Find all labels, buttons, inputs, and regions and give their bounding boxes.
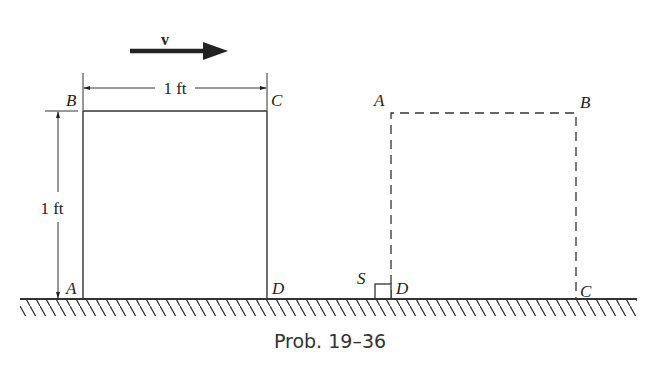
height-dimension-label: 1 ft (40, 199, 63, 218)
corner-label-initial-top-left: B (66, 91, 77, 110)
problem-figure: v 1 ft 1 ft B C A D A B D C S (0, 0, 658, 370)
ground (20, 299, 637, 316)
velocity-label: v (161, 31, 169, 48)
corner-label-final-bottom-left: D (395, 279, 409, 298)
corner-label-initial-bottom-right: D (271, 279, 285, 298)
corner-label-final-top-left: A (373, 91, 385, 110)
stop-label: S (357, 269, 366, 288)
height-dimension: 1 ft (40, 111, 78, 298)
corner-label-initial-top-right: C (271, 91, 283, 110)
velocity-arrow: v (130, 31, 228, 60)
corner-label-final-top-right: B (580, 93, 591, 112)
width-dimension-label: 1 ft (163, 79, 186, 98)
final-square: A B D C (373, 91, 592, 301)
initial-square: B C A D (65, 91, 285, 299)
width-dimension: 1 ft (83, 73, 267, 110)
stop-block: S (357, 269, 391, 299)
corner-label-initial-bottom-left: A (65, 279, 77, 298)
figure-caption: Prob. 19–36 (274, 330, 386, 352)
